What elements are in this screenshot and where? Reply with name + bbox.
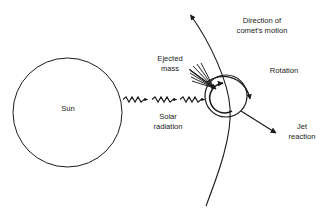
solar-radiation-wave-3 bbox=[180, 97, 205, 102]
jet-reaction-arrow bbox=[241, 111, 276, 133]
diagram-canvas: Sun Ejected mass Solar radiation Directi… bbox=[0, 0, 326, 210]
label-direction-of-comets-motion: Direction of comet's motion bbox=[216, 16, 308, 36]
label-jet-reaction: Jet reaction bbox=[280, 122, 324, 142]
solar-radiation-wave-1 bbox=[123, 97, 148, 102]
label-rotation: Rotation bbox=[256, 66, 312, 76]
comet-nucleus-circle bbox=[205, 75, 247, 117]
label-sun: Sun bbox=[40, 104, 96, 114]
label-ejected-mass: Ejected mass bbox=[142, 54, 198, 74]
label-solar-radiation: Solar radiation bbox=[139, 112, 197, 132]
solar-radiation-wave-2 bbox=[152, 97, 177, 102]
